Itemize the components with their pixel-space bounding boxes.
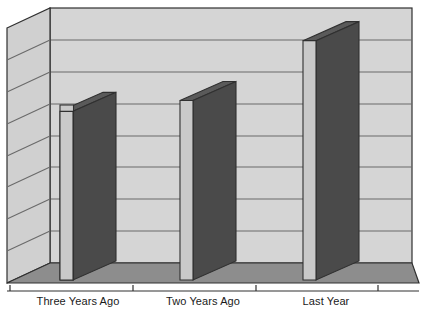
bar-side-face [73, 92, 116, 280]
bar-three-years-ago[interactable] [60, 92, 116, 280]
bar-two-years-ago[interactable] [180, 81, 236, 280]
bar-front-face [180, 100, 193, 280]
plot-side-wall [7, 8, 50, 283]
category-label-two-years-ago: Two Years Ago [133, 295, 273, 307]
bar-side-face [316, 22, 359, 280]
bar-front-face [303, 41, 316, 280]
category-label-last-year: Last Year [256, 295, 396, 307]
bar-last-year[interactable] [303, 22, 359, 280]
bar-side-face [193, 81, 236, 280]
category-axis [7, 285, 419, 291]
bar-front-face [60, 111, 73, 280]
category-label-three-years-ago: Three Years Ago [8, 295, 148, 307]
bar-chart-3d: Three Years Ago Two Years Ago Last Year [0, 0, 427, 319]
chart-canvas [0, 0, 427, 319]
